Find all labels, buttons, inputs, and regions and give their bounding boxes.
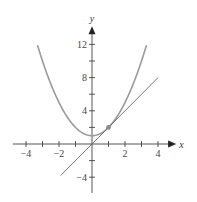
x-tick-label: 2 [123,148,128,159]
x-tick-label: −2 [54,148,65,159]
x-axis-label: x [178,139,184,150]
y-tick-label: 12 [77,39,87,50]
x-tick-label: −4 [21,148,32,159]
plot-area: −4−224−44812xy [0,0,197,202]
labels: −4−224−44812xy [21,13,184,183]
y-tick-label: 4 [82,105,87,116]
y-axis-label: y [89,13,95,24]
y-axis-arrow-icon [89,26,96,34]
axes [13,26,176,193]
tangent-point-marker [106,125,111,130]
y-tick-label: −4 [76,172,87,183]
x-tick-label: 4 [156,148,161,159]
x-axis-arrow-icon [168,141,176,148]
chart-figure: −4−224−44812xy [0,0,197,202]
y-tick-label: 8 [82,72,87,83]
